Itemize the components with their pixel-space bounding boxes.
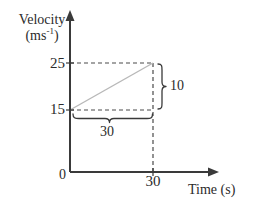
y-tick-label-15: 15 xyxy=(41,101,65,118)
y-axis-unit: (ms-1) xyxy=(8,28,76,44)
velocity-time-graph-figure: Velocity (ms-1) Time (s) 25 15 30 0 10 3… xyxy=(0,0,254,213)
x-tick-label-30: 30 xyxy=(141,173,165,190)
run-brace-label: 30 xyxy=(100,124,114,140)
rise-brace-label: 10 xyxy=(170,78,184,94)
rise-brace xyxy=(158,64,166,109)
run-brace xyxy=(73,114,153,123)
x-axis-arrowhead xyxy=(208,168,219,177)
y-axis-unit-base: (ms xyxy=(25,28,46,43)
x-axis-title: Time (s) xyxy=(188,182,235,198)
y-axis-unit-exponent: -1 xyxy=(46,26,54,36)
y-tick-label-25: 25 xyxy=(41,55,65,72)
y-axis-title: Velocity xyxy=(8,12,76,28)
velocity-data-line xyxy=(70,63,153,110)
y-axis-unit-close: ) xyxy=(54,28,59,43)
origin-label: 0 xyxy=(54,167,66,183)
